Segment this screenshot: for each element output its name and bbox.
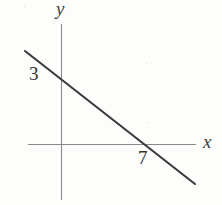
axes-group	[28, 24, 196, 200]
plotted-line-group	[25, 51, 195, 184]
x-intercept-label: 7	[138, 148, 148, 167]
scan-speck	[148, 122, 149, 123]
y-intercept-label: 3	[29, 64, 39, 83]
line-graph-figure: y x 3 7	[0, 0, 222, 205]
y-axis-label: y	[56, 0, 64, 18]
x-axis-label: x	[203, 132, 211, 151]
plotted-line	[25, 51, 195, 184]
scan-speck	[24, 6, 25, 7]
scan-speck	[146, 63, 147, 64]
coordinate-plane-svg	[0, 0, 222, 205]
